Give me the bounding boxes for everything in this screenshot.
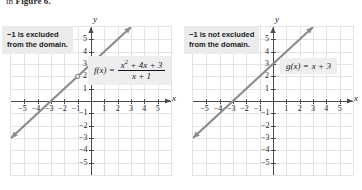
annotation-right-line1: −1 is not excluded <box>189 30 254 40</box>
y-axis-arrow <box>270 27 275 33</box>
y-axis-label-right: y <box>275 14 279 24</box>
annotation-left-line1: −1 is excluded <box>7 30 68 40</box>
formula-f: f(x) = x2 + 4x + 3 x + 1 <box>88 56 171 85</box>
annotation-right-line2: from the domain. <box>189 40 254 50</box>
formula-f-numerator: x2 + 4x + 3 <box>118 59 165 71</box>
annotation-left-line2: from the domain. <box>7 40 68 50</box>
formula-f-label: f(x) = <box>94 65 115 75</box>
x-axis-arrow <box>165 98 171 103</box>
formula-f-fraction: x2 + 4x + 3 x + 1 <box>118 59 165 82</box>
y-axis-arrow <box>88 27 93 33</box>
formula-f-denominator: x + 1 <box>129 71 154 81</box>
formula-g: g(x) = x + 3 <box>280 58 337 74</box>
caption-prefix: in <box>6 0 16 6</box>
x-axis-label-right: x <box>354 93 358 103</box>
x-axis-label-left: x <box>172 93 176 103</box>
annotation-left: −1 is excluded from the domain. <box>2 26 73 54</box>
excluded-point-open-circle <box>76 74 80 78</box>
y-axis-label-left: y <box>93 14 97 24</box>
formula-g-rhs: x + 3 <box>312 61 331 71</box>
caption-figure-number: Figure 6. <box>16 0 51 6</box>
annotation-right: −1 is not excluded from the domain. <box>184 26 259 54</box>
formula-g-label: g(x) = <box>286 61 309 71</box>
x-axis-arrow <box>347 98 353 103</box>
figure-caption: in Figure 6. <box>6 0 51 6</box>
